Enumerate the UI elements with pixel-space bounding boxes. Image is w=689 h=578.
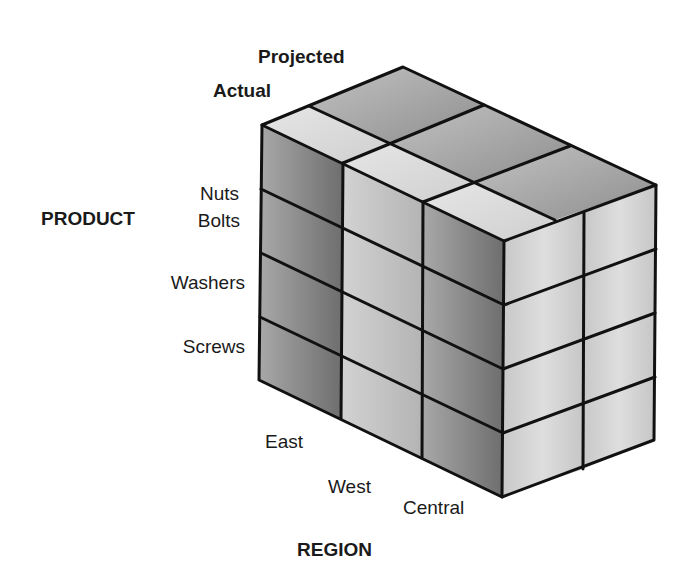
product-label-nuts: Nuts xyxy=(200,184,239,203)
product-axis-title: PRODUCT xyxy=(41,209,135,228)
product-label-bolts: Bolts xyxy=(198,211,240,230)
product-label-washers: Washers xyxy=(171,273,245,292)
region-label-central: Central xyxy=(403,498,464,517)
measure-label-actual: Actual xyxy=(213,81,271,100)
measure-label-projected: Projected xyxy=(258,47,345,66)
region-label-east: East xyxy=(265,432,303,451)
region-axis-title: REGION xyxy=(297,540,372,559)
region-label-west: West xyxy=(328,477,371,496)
product-label-screws: Screws xyxy=(183,337,245,356)
